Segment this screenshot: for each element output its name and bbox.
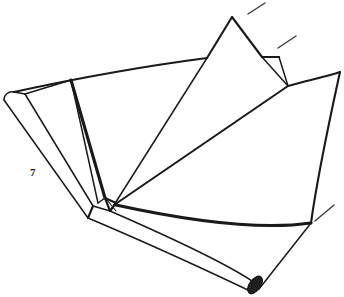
figure-label-7: 7 (30, 166, 36, 178)
paper-background (0, 0, 344, 297)
line-drawing-svg: 7 (0, 0, 344, 297)
figure-canvas: 7 (0, 0, 344, 297)
